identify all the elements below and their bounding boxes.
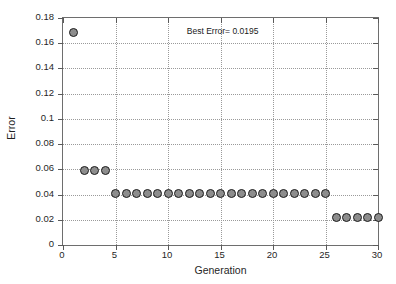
data-point-marker xyxy=(300,189,309,198)
data-point-marker xyxy=(332,213,341,222)
data-point-marker xyxy=(353,213,362,222)
data-point-marker xyxy=(174,189,183,198)
y-axis-tick-label: 0.16 xyxy=(0,37,54,47)
data-point-marker xyxy=(311,189,320,198)
data-point-marker xyxy=(216,189,225,198)
best-error-annotation: Best Error= 0.0195 xyxy=(187,26,259,36)
data-point-marker xyxy=(164,189,173,198)
data-point-marker xyxy=(258,189,267,198)
x-axis-tick-label: 20 xyxy=(267,250,278,260)
data-point-marker xyxy=(153,189,162,198)
data-point-marker xyxy=(290,189,299,198)
data-point-marker xyxy=(206,189,215,198)
y-axis-tick-label: 0.1 xyxy=(0,113,54,123)
x-axis-tick-label: 5 xyxy=(112,250,117,260)
data-point-marker xyxy=(279,189,288,198)
y-axis-tick-label: 0.14 xyxy=(0,62,54,72)
y-axis-tick-label: 0.06 xyxy=(0,163,54,173)
data-point-marker xyxy=(227,189,236,198)
data-point-marker xyxy=(269,189,278,198)
data-point-marker xyxy=(80,166,89,175)
data-point-marker xyxy=(342,213,351,222)
plot-area: Best Error= 0.0195 xyxy=(62,17,379,246)
data-point-marker xyxy=(132,189,141,198)
x-axis-tick-label: 10 xyxy=(162,250,173,260)
y-axis-tick-label: 0.04 xyxy=(0,189,54,199)
x-axis-tick-top xyxy=(378,18,379,23)
x-axis-tick-label: 30 xyxy=(372,250,383,260)
data-point-marker xyxy=(321,189,330,198)
data-point-marker xyxy=(111,189,120,198)
data-point-marker xyxy=(237,189,246,198)
y-axis-tick-label: 0.18 xyxy=(0,12,54,22)
x-axis-title: Generation xyxy=(62,264,379,276)
y-axis-tick-label: 0.12 xyxy=(0,88,54,98)
y-axis-tick-label: 0.02 xyxy=(0,214,54,224)
x-axis-tick-label: 15 xyxy=(214,250,225,260)
y-axis-tick-label: 0.08 xyxy=(0,138,54,148)
data-point-marker xyxy=(101,166,110,175)
data-point-marker xyxy=(69,28,78,37)
data-point-marker xyxy=(248,189,257,198)
data-point-marker xyxy=(195,189,204,198)
data-point-marker xyxy=(143,189,152,198)
data-point-marker xyxy=(374,213,383,222)
y-axis-tick-label: 0 xyxy=(0,239,54,249)
data-point-marker xyxy=(90,166,99,175)
x-axis-tick-label: 0 xyxy=(59,250,64,260)
data-points-layer xyxy=(63,18,378,245)
data-point-marker xyxy=(185,189,194,198)
x-axis-tick-label: 25 xyxy=(319,250,330,260)
scatter-chart-figure: Best Error= 0.0195 Generation Error 00.0… xyxy=(0,0,396,284)
data-point-marker xyxy=(122,189,131,198)
data-point-marker xyxy=(363,213,372,222)
